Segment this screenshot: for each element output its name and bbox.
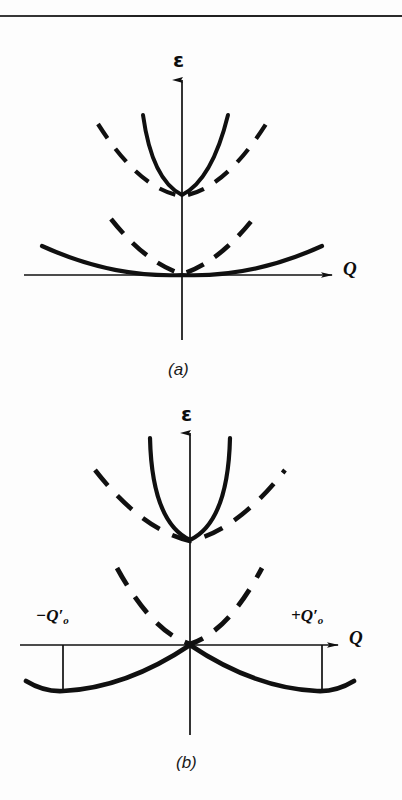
figure-root: ε Q (a) <box>0 0 402 800</box>
tick-label-right-text: +Q <box>291 606 313 625</box>
panel-b-plot <box>0 400 402 800</box>
panel-b-x-axis-label: Q <box>349 627 363 649</box>
panel-a-x-axis-label: Q <box>343 258 357 280</box>
panel-b: ε Q −Q′o +Q′o (b) <box>0 400 402 800</box>
panel-a-upper-solid-curve <box>143 115 228 195</box>
panel-a-y-axis-label: ε <box>173 48 184 72</box>
panel-a-plot <box>0 20 402 400</box>
tick-label-right-subscript: o <box>318 614 324 626</box>
panel-b-caption: (b) <box>176 753 197 773</box>
panel-b-tick-label-left: −Q′o <box>36 606 69 626</box>
panel-a: ε Q (a) <box>0 20 402 400</box>
panel-b-y-axis-label: ε <box>181 402 192 426</box>
tick-label-left-subscript: o <box>63 614 69 626</box>
top-rule-divider <box>0 15 402 17</box>
tick-label-left-text: −Q <box>36 606 59 625</box>
panel-b-tick-label-right: +Q′o <box>291 606 323 626</box>
panel-a-caption: (a) <box>168 360 189 380</box>
